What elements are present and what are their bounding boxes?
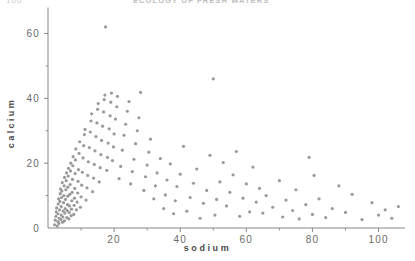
- data-point: [127, 100, 130, 103]
- data-point: [111, 159, 114, 162]
- data-point: [136, 129, 139, 132]
- data-point: [215, 198, 218, 201]
- data-point: [73, 204, 76, 207]
- data-point: [172, 212, 175, 215]
- data-point: [91, 190, 94, 193]
- data-point: [278, 179, 281, 182]
- data-point: [93, 149, 96, 152]
- data-point: [116, 95, 119, 98]
- data-point: [69, 162, 72, 165]
- data-point: [73, 187, 76, 190]
- data-point: [248, 210, 251, 213]
- data-point: [144, 175, 147, 178]
- data-point: [87, 160, 90, 163]
- data-point: [103, 98, 106, 101]
- data-point: [54, 215, 57, 218]
- data-point: [169, 162, 172, 165]
- data-point: [58, 200, 61, 203]
- data-point: [96, 108, 99, 111]
- x-axis-title: sodium: [0, 243, 415, 253]
- data-point: [72, 213, 75, 216]
- data-point: [101, 125, 104, 128]
- data-point: [72, 155, 75, 158]
- data-point: [62, 201, 65, 204]
- data-point: [104, 25, 107, 28]
- data-point: [294, 188, 297, 191]
- data-point: [337, 184, 340, 187]
- data-point: [79, 206, 82, 209]
- data-point: [313, 174, 316, 177]
- data-point: [70, 208, 73, 211]
- data-point: [298, 217, 301, 220]
- data-point: [281, 215, 284, 218]
- data-point: [94, 135, 97, 138]
- data-point: [225, 204, 228, 207]
- data-point: [238, 215, 241, 218]
- data-point: [108, 127, 111, 130]
- data-point: [174, 199, 177, 202]
- data-point: [67, 167, 70, 170]
- data-point: [129, 182, 132, 185]
- data-point: [74, 158, 77, 161]
- data-point: [95, 121, 98, 124]
- data-point: [89, 130, 92, 133]
- x-tick-label: 40: [173, 234, 187, 245]
- data-point: [83, 133, 86, 136]
- data-point: [58, 208, 61, 211]
- data-point: [397, 205, 400, 208]
- data-point: [83, 128, 86, 131]
- data-point: [60, 205, 63, 208]
- data-point: [137, 116, 140, 119]
- data-point: [258, 187, 261, 190]
- data-point: [159, 157, 162, 160]
- data-point: [82, 144, 85, 147]
- data-point: [61, 181, 64, 184]
- y-tick-label: 0: [14, 223, 40, 234]
- data-point: [131, 170, 134, 173]
- data-point: [164, 193, 167, 196]
- data-point: [74, 172, 77, 175]
- data-point: [75, 208, 78, 211]
- data-point: [162, 207, 165, 210]
- x-tick-label: 100: [368, 234, 388, 245]
- data-point: [192, 182, 195, 185]
- data-point: [100, 139, 103, 142]
- data-point: [102, 110, 105, 113]
- data-point: [271, 206, 274, 209]
- page-number: 100: [6, 0, 22, 5]
- data-point: [71, 191, 74, 194]
- data-point: [64, 198, 67, 201]
- data-point: [304, 203, 307, 206]
- x-tick-label: 20: [107, 234, 121, 245]
- data-point: [291, 209, 294, 212]
- data-point: [344, 211, 347, 214]
- data-point: [89, 119, 92, 122]
- data-point: [107, 141, 110, 144]
- data-point: [317, 197, 320, 200]
- data-point: [68, 204, 71, 207]
- data-point: [65, 171, 68, 174]
- data-point: [147, 151, 150, 154]
- data-point: [63, 219, 66, 222]
- data-point: [86, 174, 89, 177]
- data-point: [390, 217, 393, 220]
- data-point: [121, 149, 124, 152]
- data-point: [182, 145, 185, 148]
- data-point: [245, 182, 248, 185]
- data-point: [189, 196, 192, 199]
- data-point: [56, 212, 59, 215]
- data-point: [179, 173, 182, 176]
- data-point: [228, 191, 231, 194]
- data-point: [175, 185, 178, 188]
- data-point: [324, 216, 327, 219]
- data-point: [370, 201, 373, 204]
- data-point: [88, 146, 91, 149]
- data-point: [98, 180, 101, 183]
- data-point: [61, 215, 64, 218]
- data-point: [109, 114, 112, 117]
- data-point: [77, 168, 80, 171]
- data-point: [218, 180, 221, 183]
- data-point: [110, 92, 113, 95]
- data-point: [75, 200, 78, 203]
- data-point: [93, 163, 96, 166]
